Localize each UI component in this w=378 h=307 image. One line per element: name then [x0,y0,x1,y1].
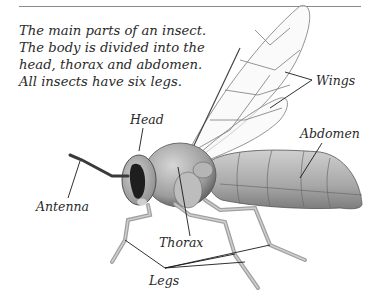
label-thorax: Thorax [159,235,203,250]
label-antenna: Antenna [36,199,89,214]
wings [185,5,310,165]
abdomen [207,150,362,209]
wasp-illustration [0,0,378,307]
label-head: Head [130,112,164,127]
label-legs: Legs [149,273,179,288]
label-abdomen: Abdomen [300,126,360,141]
label-wings: Wings [316,73,355,88]
insect-diagram: The main parts of an insect. The body is… [0,0,378,307]
